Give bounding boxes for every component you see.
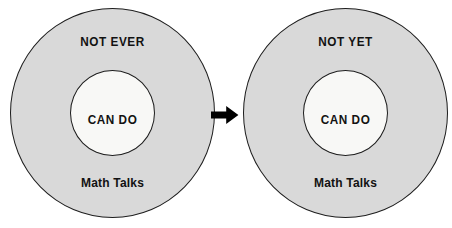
concentric-circles-diagram: NOT EVER CAN DO Math Talks NOT YET CAN D… bbox=[0, 0, 452, 228]
outer-bottom-label-after: Math Talks bbox=[247, 177, 444, 190]
inner-label-after: CAN DO bbox=[249, 114, 442, 127]
outer-top-label-before: NOT EVER bbox=[16, 36, 209, 49]
diagram-before: NOT EVER CAN DO Math Talks bbox=[10, 8, 215, 218]
diagram-after: NOT YET CAN DO Math Talks bbox=[243, 8, 448, 218]
outer-top-label-after: NOT YET bbox=[249, 36, 442, 49]
inner-label-before: CAN DO bbox=[16, 114, 209, 127]
outer-bottom-label-before: Math Talks bbox=[14, 177, 211, 190]
arrow-right-icon bbox=[211, 103, 239, 127]
